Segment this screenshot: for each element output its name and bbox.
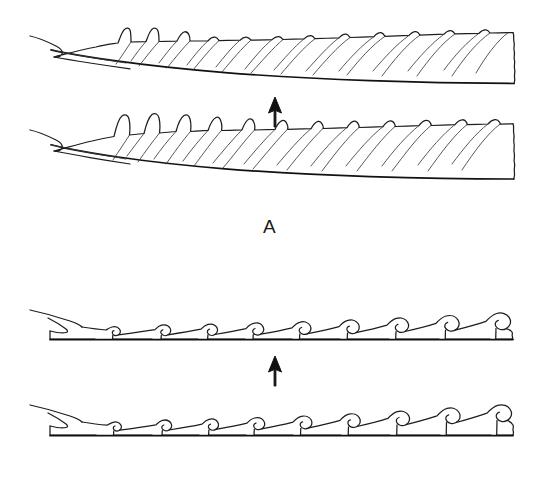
figure-root: A <box>0 0 539 487</box>
panel-a: A <box>0 0 539 250</box>
panel-label-a: A <box>0 216 539 238</box>
specimen-a-upper <box>0 18 539 98</box>
panel-b: B <box>0 250 539 487</box>
arrow-up-panel-b <box>262 355 288 387</box>
specimen-a-lower <box>0 108 539 203</box>
specimen-b-lower <box>0 395 539 461</box>
